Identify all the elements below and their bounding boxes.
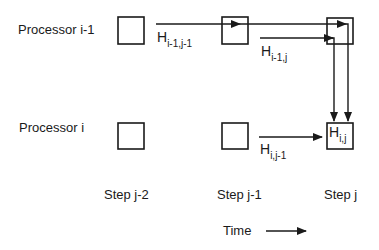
label-h-i-1-j-1: Hi-1,j-1 <box>157 30 192 49</box>
time-axis-label: Time <box>223 223 251 238</box>
cell-box-i-j-2 <box>118 123 144 149</box>
cell-box-i-1-j-2 <box>118 17 144 44</box>
label-h-i-j-1: Hi,j-1 <box>260 142 286 161</box>
label-h-i-1-j: Hi-1,j <box>261 44 287 63</box>
step-label-j-1: Step j-1 <box>217 187 262 202</box>
step-label-j: Step j <box>324 187 357 202</box>
row-label-processor-i-1: Processor i-1 <box>18 22 95 37</box>
cell-box-i-1-j-1 <box>222 17 248 44</box>
row-label-processor-i: Processor i <box>19 120 84 135</box>
arrow-down-inner <box>332 38 334 121</box>
cell-box-i-j-1 <box>222 123 248 149</box>
arrow-down-outer <box>346 24 348 121</box>
step-label-j-2: Step j-2 <box>104 187 149 202</box>
cell-box-i-1-j <box>327 18 353 44</box>
label-h-i-j: Hi,j <box>329 125 346 144</box>
